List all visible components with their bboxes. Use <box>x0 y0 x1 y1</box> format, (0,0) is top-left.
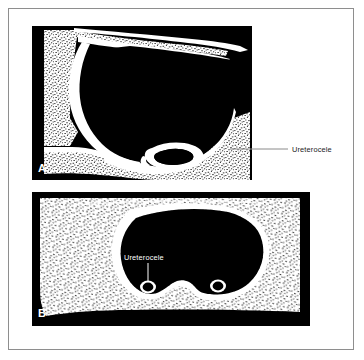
panel-b <box>32 192 310 326</box>
annotation-b-label: Ureterocele <box>124 253 164 262</box>
panel-b-ureterocele-left-lumen <box>143 283 154 292</box>
figure-root: A Ureterocele B Ureterocel <box>0 0 364 360</box>
panel-a-letter: A <box>38 162 46 174</box>
annotation-a-label: Ureterocele <box>292 145 332 154</box>
panel-b-letter: B <box>38 307 46 319</box>
ureterocele-illustration: A Ureterocele B Ureterocel <box>0 0 364 360</box>
panel-a-bladder-lumen <box>86 46 232 156</box>
panel-b-bladder-lumen <box>121 209 264 294</box>
panel-b-ureterocele-right-lumen <box>213 282 224 291</box>
panel-a <box>32 26 252 180</box>
